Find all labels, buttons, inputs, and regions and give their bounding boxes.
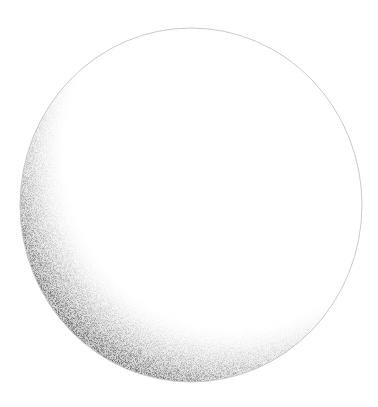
- sphere-illustration: [0, 0, 378, 407]
- sphere-shading: [20, 28, 362, 382]
